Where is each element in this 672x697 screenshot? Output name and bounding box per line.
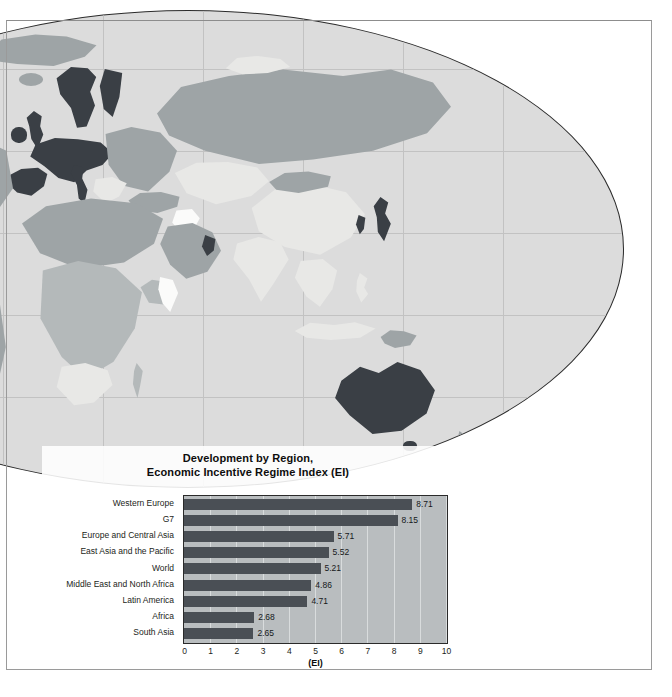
world-map-figure [0,18,640,478]
category-label: Latin America [123,595,175,606]
graticule-line [3,11,4,487]
landmass-iceland [19,73,43,86]
landmass-australia [333,359,437,437]
bar-series: 8.718.155.715.525.214.864.712.682.65 [184,496,447,643]
landmass-southern-africa [53,363,115,409]
landmass-indonesia [293,321,379,343]
chart-title-line-2: Economic Incentive Regime Index (EI) [42,465,454,479]
landmass-central-asia [171,161,269,207]
graticule-line [0,69,623,70]
x-axis-title: (EI) [183,658,448,668]
category-label: South Asia [133,627,174,638]
category-label: World [152,563,174,574]
x-tick-label: 10 [442,646,451,656]
landmass-madagascar [131,363,145,399]
bar-value-label: 2.68 [258,612,275,623]
bar[interactable] [184,628,253,639]
bar[interactable] [184,580,311,591]
x-tick-label: 5 [313,646,318,656]
bar-row: 5.21 [184,561,447,577]
x-tick-label: 3 [261,646,266,656]
landmass-ireland [11,127,27,143]
x-axis: (EI) 012345678910 [183,646,448,676]
bar[interactable] [184,563,321,574]
graticule-line [503,11,504,487]
bar-row: 2.65 [184,626,447,642]
bar[interactable] [184,596,307,607]
bar-row: 5.52 [184,545,447,561]
category-axis-labels: Western EuropeG7Europe and Central AsiaE… [42,495,178,644]
bar-value-label: 4.86 [315,580,332,591]
x-tick-label: 1 [208,646,213,656]
landmass-russia [151,65,451,175]
bar-value-label: 5.71 [338,531,355,542]
landmass-southeast-asia [293,259,341,311]
bar-row: 8.15 [184,512,447,528]
landmass-new-zealand [453,431,469,455]
landmass-greenland [0,33,103,69]
bar-row: 4.86 [184,577,447,593]
x-tick-label: 6 [339,646,344,656]
category-label: Western Europe [113,498,174,509]
category-label: G7 [163,514,174,525]
bar-row: 5.71 [184,528,447,544]
bar-value-label: 5.52 [333,547,350,558]
landmass-india [231,237,291,303]
bar-value-label: 8.71 [416,499,433,510]
bar[interactable] [184,547,329,558]
bar[interactable] [184,612,254,623]
globe-orthographic [0,10,624,488]
landmass-philippines [353,273,371,303]
bar-value-label: 8.15 [402,515,419,526]
landmass-sub-saharan-africa [31,261,149,381]
bar-value-label: 4.71 [311,596,328,607]
x-tick-label: 9 [418,646,423,656]
landmass-north-america [0,131,13,241]
landmass-italy [69,165,91,205]
bar-value-label: 5.21 [325,563,342,574]
landmass-papua-new-guinea [379,329,419,351]
bar[interactable] [184,499,412,510]
bar-value-label: 2.65 [257,628,274,639]
x-tick-label: 8 [392,646,397,656]
category-label: Middle East and North Africa [66,579,174,590]
chart-title: Development by Region, Economic Incentiv… [42,446,454,479]
x-tick-label: 4 [287,646,292,656]
x-tick-label: 0 [182,646,187,656]
bar-row: 8.71 [184,496,447,512]
x-tick-label: 7 [366,646,371,656]
landmass-finland [97,69,125,119]
category-label: Africa [152,611,174,622]
landmass-iberia [7,167,49,199]
bar[interactable] [184,531,334,542]
bar-row: 4.71 [184,593,447,609]
category-label: Europe and Central Asia [82,530,174,541]
bar[interactable] [184,515,398,526]
x-tick-label: 2 [235,646,240,656]
landmass-japan [369,197,395,243]
bar-chart-panel: Development by Region, Economic Incentiv… [42,446,454,662]
plot-area: 8.718.155.715.525.214.864.712.682.65 [183,495,448,644]
chart-title-line-1: Development by Region, [42,451,454,465]
bar-row: 2.68 [184,610,447,626]
category-label: East Asia and the Pacific [80,546,174,557]
